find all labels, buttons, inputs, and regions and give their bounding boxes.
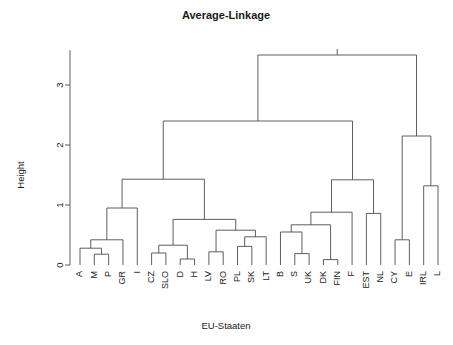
dendrogram-link [258,55,417,136]
leaf-label: GR [117,270,127,284]
dendrogram-link [331,180,373,214]
dendrogram-link [173,219,236,245]
dendrogram-link [159,245,188,259]
leaf-label: NL [375,271,385,283]
leaf-label: B [275,271,285,277]
dendrogram-tree [80,49,438,265]
dendrogram-link [122,179,204,219]
page-title: Average-Linkage [182,9,270,21]
dendrogram-plot-panel: Average-Linkage Height EU-Staaten 0123 A… [0,0,453,345]
x-axis-label: EU-Staaten [201,320,250,331]
leaf-label: M [89,271,99,279]
leaf-label: SLO [160,271,170,289]
leaf-label: I [132,271,142,274]
leaf-label: EST [361,271,371,289]
leaf-labels: AMPGRICZSLODHLVROPLSKLTBSUKDKFINFESTNLCY… [74,270,442,289]
leaf-label: CY [389,271,399,284]
dendrogram-link [280,232,301,265]
dendrogram-link [94,254,108,265]
dendrogram-link [245,237,266,265]
y-axis-tick-label: 3 [54,82,65,87]
dendrogram-link [107,208,137,265]
dendrogram-link [91,240,123,265]
leaf-label: H [189,271,199,278]
dendrogram-link [395,240,409,265]
dendrogram-link [216,230,255,252]
dendrogram-link [163,121,352,180]
dendrogram-link [366,213,380,265]
y-axis-tick-label: 2 [54,142,65,147]
dendrogram-link [311,212,352,265]
leaf-label: P [103,271,113,277]
dendrogram-link [402,136,431,240]
dendrogram-link [291,225,330,260]
dendrogram-link [152,253,166,265]
dendrogram-link [209,252,223,265]
leaf-label: UK [303,271,313,284]
dendrogram-link [80,248,101,265]
y-axis-tick-label: 0 [54,262,65,267]
leaf-label: IRL [418,271,428,285]
leaf-label: LT [261,271,271,281]
leaf-label: SK [246,271,256,283]
dendrogram-link [424,186,438,265]
leaf-label: PL [232,271,242,282]
dendrogram-link [180,259,194,265]
dendrogram-link [323,260,337,265]
dendrogram-link [295,254,309,265]
leaf-label: RO [218,271,228,285]
leaf-label: A [74,271,84,277]
y-axis: 0123 [54,50,70,267]
y-axis-tick-label: 1 [54,202,65,207]
dendrogram-link [238,246,252,265]
leaf-label: E [404,271,414,277]
dendrogram-svg: Average-Linkage Height EU-Staaten 0123 A… [0,0,453,345]
leaf-label: S [289,271,299,277]
leaf-label: FIN [332,271,342,286]
leaf-label: D [175,271,185,278]
leaf-label: F [346,271,356,277]
leaf-label: DK [318,271,328,284]
leaf-label: LV [203,271,213,281]
y-axis-label: Height [15,161,26,189]
leaf-label: CZ [146,271,156,283]
leaf-label: L [432,271,442,276]
